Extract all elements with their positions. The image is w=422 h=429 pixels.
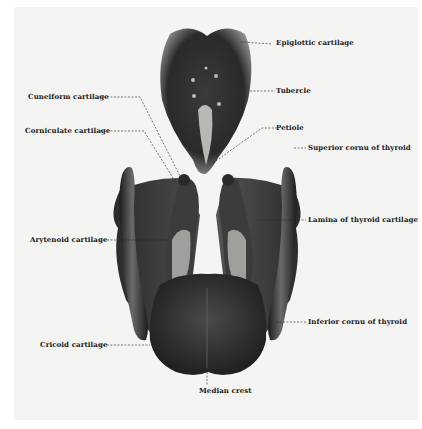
label-lamina-of-thyroid-cartilage: Lamina of thyroid cartilage [308,215,418,224]
label-inferior-cornu-of-thyroid: Inferior cornu of thyroid [308,317,407,326]
label-tubercle: Tubercle [276,86,311,95]
epiglottic-cartilage-shape [160,28,251,174]
label-median-crest: Median crest [199,386,252,395]
label-cricoid-cartilage: Cricoid cartilage [40,340,107,349]
label-cuneiform-cartilage: Cuneiform cartilage [28,92,109,101]
label-epiglottic-cartilage: Epiglottic cartilage [276,38,354,47]
leader-corniculate [100,131,176,183]
label-corniculate-cartilage: Corniculate cartilage [25,126,110,135]
label-arytenoid-cartilage: Arytenoid cartilage [30,235,107,244]
label-petiole: Petiole [276,123,304,132]
cricoid-cartilage-shape [150,274,267,375]
label-superior-cornu-of-thyroid: Superior cornu of thyroid [308,143,411,152]
